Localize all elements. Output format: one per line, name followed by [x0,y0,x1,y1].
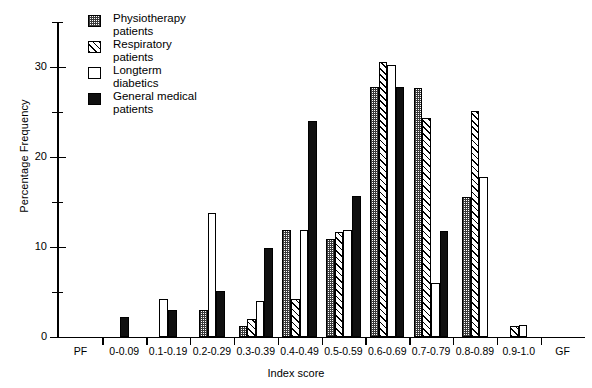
x-tick-label: 0.7-0.79 [409,345,453,357]
legend-label: Longterm diabetics [113,64,162,89]
x-tick [541,338,542,345]
x-tick [102,338,103,345]
bar [335,232,344,336]
y-tick-major-inner [58,337,66,338]
x-tick-label: 0-0.09 [102,345,146,357]
bar-group [365,22,409,337]
x-tick-label: PF [59,345,103,357]
y-tick-label: 20 [7,151,47,161]
bar [326,239,335,337]
bar [239,326,248,337]
bar [462,197,471,336]
bar [120,317,129,337]
legend-swatch-diagonal-hatch [88,41,101,53]
x-tick [497,338,498,345]
bar [479,177,488,337]
bar-group [453,22,497,337]
bar [422,118,431,336]
legend-label: General medical patients [113,90,197,115]
bar [440,231,449,336]
x-tick [234,338,235,345]
bar-group [409,22,453,337]
x-tick [322,338,323,345]
y-tick-label: 0 [7,331,47,341]
x-tick [409,338,410,345]
bar [256,301,265,337]
legend-label: Respiratory patients [113,38,172,63]
x-tick-label: 0.3-0.39 [234,345,278,357]
legend-swatch-checkered-gray [88,15,101,27]
bar [216,291,225,337]
x-axis-title: Index score [0,367,592,379]
y-tick-label: 30 [7,61,47,71]
bar [370,87,379,337]
legend-label: Physiotherapy patients [113,12,186,37]
legend-swatch-solid-black [88,93,101,105]
x-tick-label: 0.1-0.19 [146,345,190,357]
bar [352,196,361,336]
bar [343,230,352,336]
bar [396,87,405,337]
x-tick [278,338,279,345]
bar [168,310,177,337]
x-tick-label: 0.9-1.0 [497,345,541,357]
bar [159,299,168,337]
y-tick-label: 10 [7,241,47,251]
bar [471,111,480,337]
y-tick-major [50,67,58,68]
bar-chart: Percentage Frequency 0102030 PF0-0.090.1… [0,0,592,388]
bar-group [322,22,366,337]
legend-item: Physiotherapy patients [88,14,298,39]
bar [208,213,217,336]
bar [510,326,519,337]
bar-group [541,22,585,337]
y-tick-major [50,247,58,248]
y-tick-major [50,157,58,158]
bar [519,325,528,337]
x-tick [365,338,366,345]
legend-swatch-white-open [88,67,101,79]
legend-item: Respiratory patients [88,40,298,65]
x-tick-label: GF [541,345,585,357]
bar [431,283,440,337]
x-tick-label: 0.4-0.49 [278,345,322,357]
bar [199,310,208,337]
bar [282,230,291,336]
bar-group [497,22,541,337]
bar [387,65,396,336]
x-tick-label: 0.8-0.89 [453,345,497,357]
legend-item: General medical patients [88,92,298,117]
x-tick [453,338,454,345]
bar [414,88,423,337]
y-axis-tick-labels: 0102030 [0,0,47,388]
bar [308,121,317,337]
legend: Physiotherapy patientsRespiratory patien… [88,14,298,118]
x-tick [146,338,147,345]
legend-item: Longterm diabetics [88,66,298,91]
bar [300,230,309,336]
x-tick-label: 0.6-0.69 [365,345,409,357]
bar [291,299,300,337]
y-tick-major [50,337,58,338]
bar [264,248,273,337]
x-tick-label: 0.2-0.29 [190,345,234,357]
bar [247,319,256,337]
x-tick-label: 0.5-0.59 [322,345,366,357]
bar [379,62,388,336]
x-tick [190,338,191,345]
